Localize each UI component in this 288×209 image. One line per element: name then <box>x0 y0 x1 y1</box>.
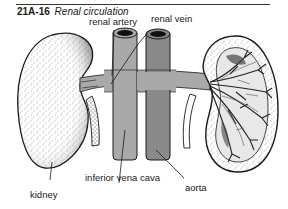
inferior-vena-cava-vessel <box>113 28 137 160</box>
label-kidney: kidney <box>30 189 57 200</box>
aorta-vessel <box>146 29 170 160</box>
label-renal-vein: renal vein <box>151 13 192 24</box>
right-kidney-section <box>203 36 278 172</box>
label-inferior-vena-cava: inferior vena cava <box>85 172 160 183</box>
left-kidney <box>18 33 93 168</box>
label-aorta: aorta <box>185 182 207 193</box>
renal-vein-over-aorta <box>137 72 176 90</box>
label-renal-artery: renal artery <box>89 16 137 27</box>
